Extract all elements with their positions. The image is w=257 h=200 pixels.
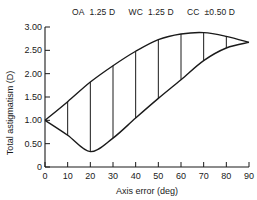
- chart-curves: [45, 32, 249, 151]
- chart-axes: 010203040506070809000.501.001.502.002.50…: [24, 22, 254, 181]
- x-tick-label: 60: [176, 171, 186, 181]
- y-tick-label: 1.50: [24, 92, 42, 102]
- x-tick-label: 80: [221, 171, 231, 181]
- x-tick-label: 40: [131, 171, 141, 181]
- x-tick-label: 20: [85, 171, 95, 181]
- x-tick-label: 70: [199, 171, 209, 181]
- y-tick-label: 0: [37, 162, 42, 172]
- y-tick-label: 0.50: [24, 139, 42, 149]
- y-tick-label: 1.00: [24, 115, 42, 125]
- x-tick-label: 10: [63, 171, 73, 181]
- x-tick-label: 0: [42, 171, 47, 181]
- x-tick-label: 30: [108, 171, 118, 181]
- y-axis-label: Total astigmatism (D): [5, 71, 15, 156]
- x-tick-label: 90: [244, 171, 254, 181]
- y-tick-label: 3.00: [24, 22, 42, 32]
- y-tick-label: 2.50: [24, 45, 42, 55]
- x-tick-label: 50: [153, 171, 163, 181]
- y-tick-label: 2.00: [24, 69, 42, 79]
- x-axis-label: Axis error (deg): [116, 186, 178, 196]
- chart-connectors: [68, 33, 227, 152]
- astigmatism-chart: 010203040506070809000.501.001.502.002.50…: [0, 0, 257, 200]
- upper-bound-curve: [45, 32, 249, 120]
- lower-bound-curve: [45, 42, 249, 151]
